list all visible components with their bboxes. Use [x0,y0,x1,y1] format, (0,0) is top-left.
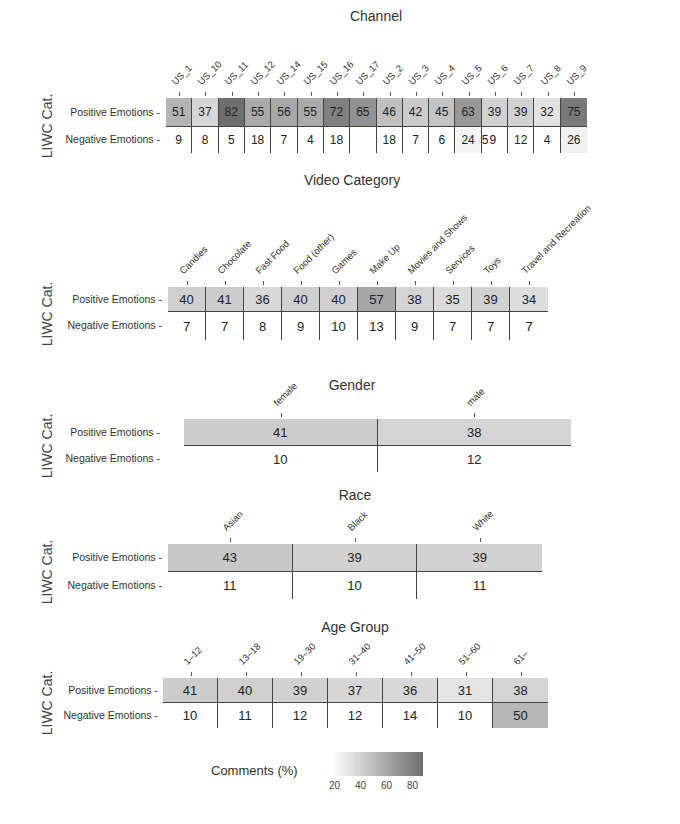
x-tick [230,538,231,542]
y-axis-label: LIWC Cat. [39,663,55,743]
heatmap-cell: 51 [166,98,192,127]
x-tick [466,672,467,676]
heatmap-cell: 38 [493,678,548,703]
heatmap-grid: 5137825556557265464245633939327598518741… [166,98,587,153]
heatmap-cell: 57 [358,287,396,312]
x-tick [377,281,378,285]
x-tick [355,538,356,542]
x-tick [191,672,192,676]
x-tick [311,92,312,96]
row-label-positive-emotions: Positive Emotions - [72,551,162,563]
x-tick [246,672,247,676]
heatmap-cell: 41 [184,419,378,446]
column-label: Food (other) [291,231,336,276]
heatmap-cell: 42 [403,98,429,127]
x-tick [179,92,180,96]
heatmap-cell: 39 [417,544,542,572]
x-tick [442,92,443,96]
x-tick [529,281,530,285]
heatmap-cell: 10 [184,446,378,472]
heatmap-cell: 10 [293,572,418,599]
legend-tick-40: 40 [355,780,366,791]
heatmap-cell: 31 [438,678,493,703]
column-label: 13–18 [236,641,262,667]
y-axis-label: LIWC Cat. [39,274,55,354]
heatmap-cell: 7 [168,312,206,340]
heatmap-cell: 46 [377,98,403,127]
heatmap-cell: 41 [206,287,244,312]
column-label: US_3 [406,62,431,87]
column-label: US_10 [195,59,223,87]
heatmap-cell: 39 [472,287,510,312]
heatmap-cell: 24 [455,127,481,153]
heatmap-cell: 26 [561,127,587,153]
y-axis-label: LIWC Cat. [39,532,55,612]
legend-tick-20: 20 [329,780,340,791]
column-label: US_9 [564,62,589,87]
x-tick [301,672,302,676]
x-tick [416,92,417,96]
heatmap-cell: 18 [324,127,350,153]
heatmap-cell: 10 [163,703,218,728]
heatmap-cell: 10 [438,703,493,728]
heatmap-cell: 39 [508,98,534,127]
column-label: US_2 [380,62,405,87]
heatmap-cell: 37 [192,98,218,127]
heatmap-cell: 7 [403,127,429,153]
x-tick [284,92,285,96]
x-tick [337,92,338,96]
heatmap-cell: 39 [273,678,328,703]
column-label: Make Up [367,241,402,276]
heatmap-cell: 40 [320,287,358,312]
x-tick [356,672,357,676]
x-tick [415,281,416,285]
column-label: 31–40 [346,641,372,667]
x-tick [263,281,264,285]
row-label-negative-emotions: Negative Emotions - [67,319,162,331]
heatmap-cell: 56 [271,98,297,127]
heatmap-cell: 55 [298,98,324,127]
heatmap-cell: 12 [378,446,572,472]
heatmap-cell: 9 [396,312,434,340]
y-axis-label: LIWC Cat. [39,406,55,486]
heatmap-cell: 59 [482,127,508,153]
heatmap-cell: 6 [429,127,455,153]
heatmap-cell: 11 [417,572,542,599]
heatmap-cell: 7 [271,127,297,153]
column-label: US_17 [353,59,381,87]
x-tick [281,413,282,417]
legend-gradient-bar [332,752,423,776]
row-label-positive-emotions: Positive Emotions - [68,684,158,696]
legend-title: Comments (%) [211,763,298,778]
row-label-negative-emotions: Negative Emotions - [65,452,160,464]
column-label: male [464,386,486,408]
column-label: 61– [511,648,530,667]
panel-title: Age Group [255,619,455,635]
heatmap-cell: 36 [244,287,282,312]
x-tick [258,92,259,96]
x-tick [521,92,522,96]
row-label-negative-emotions: Negative Emotions - [63,709,158,721]
heatmap-cell: 12 [328,703,383,728]
column-label: 51–60 [456,641,482,667]
heatmap-cell: 55 [245,98,271,127]
heatmap-cell: 35 [434,287,472,312]
heatmap-cell: 18 [245,127,271,153]
heatmap-cell: 9 [282,312,320,340]
heatmap-cell: 9 [166,127,192,153]
column-label: US_8 [538,62,563,87]
x-tick [521,672,522,676]
heatmap-cell: 36 [383,678,438,703]
column-label: Toys [481,254,503,276]
heatmap-cell: 72 [324,98,350,127]
heatmap-cell: 7 [434,312,472,340]
heatmap-cell: 63 [455,98,481,127]
column-label: US_16 [327,59,355,87]
column-label: US_7 [511,62,536,87]
column-label: US_5 [459,62,484,87]
heatmap-cell: 40 [282,287,320,312]
x-tick [480,538,481,542]
heatmap-cell: 18 [377,127,403,153]
heatmap-cell: 13 [358,312,396,340]
x-tick [491,281,492,285]
